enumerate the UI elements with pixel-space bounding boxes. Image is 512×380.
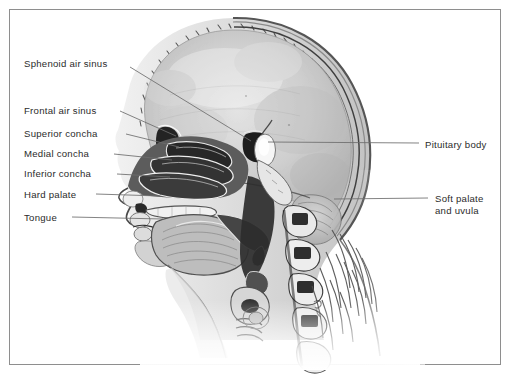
leader-line-hard-palate xyxy=(96,194,160,196)
leader-line-inferior-concha xyxy=(117,174,170,177)
label-tongue: Tongue xyxy=(24,212,57,224)
label-medial-concha: Medial concha xyxy=(24,148,89,160)
leader-line-tongue xyxy=(72,217,163,219)
label-superior-concha: Superior concha xyxy=(24,128,98,140)
leader-lines-layer xyxy=(0,0,512,380)
leader-line-pituitary-body xyxy=(268,142,419,143)
leader-line-medial-concha xyxy=(114,154,172,160)
label-sphenoid-air-sinus: Sphenoid air sinus xyxy=(24,58,107,70)
leader-line-superior-concha xyxy=(126,134,179,147)
leader-line-frontal-air-sinus xyxy=(120,111,176,136)
label-pituitary-body: Pituitary body xyxy=(425,139,487,151)
anatomical-figure: Sphenoid air sinusFrontal air sinusSuper… xyxy=(0,0,512,380)
leader-line-sphenoid-air-sinus xyxy=(130,67,251,141)
label-soft-palate-and-uvula: Soft palate and uvula xyxy=(435,193,484,216)
label-inferior-concha: Inferior concha xyxy=(24,168,91,180)
label-frontal-air-sinus: Frontal air sinus xyxy=(24,105,97,117)
label-hard-palate: Hard palate xyxy=(24,189,76,201)
leader-line-soft-palate-and-uvula xyxy=(334,198,428,199)
